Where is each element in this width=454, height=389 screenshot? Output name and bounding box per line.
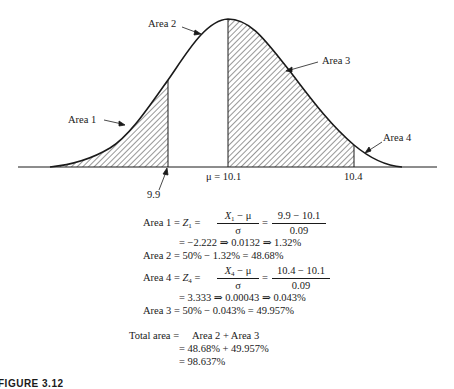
area1-result: = −2.222 ⇒ 0.0132 ⇒ 1.32% [179, 238, 301, 249]
area1-lhs: Area 1 = Z1 = [143, 218, 200, 229]
equals-sign: = [262, 218, 268, 229]
figure-caption: FIGURE 3.12 [0, 378, 64, 389]
equals-sign: = [262, 273, 268, 284]
area4-numeric-fraction: 10.4 − 10.1 0.09 [272, 266, 330, 291]
area1-symbolic-fraction: X1 − μ σ [217, 211, 259, 236]
total-lhs: Total area = [129, 331, 179, 342]
area3-line: Area 3 = 50% − 0.043% = 49.957% [143, 306, 294, 317]
total-line3: = 98.637% [179, 357, 225, 368]
area4-result: = 3.333 ⇒ 0.00043 ⇒ 0.043% [179, 293, 306, 304]
total-line1: Area 2 + Area 3 [192, 331, 259, 342]
total-line2: = 48.68% + 49.957% [179, 344, 269, 355]
area2-line: Area 2 = 50% − 1.32% = 48.68% [143, 251, 284, 262]
area4-lhs: Area 4 = Z4 = [143, 273, 200, 284]
area4-symbolic-fraction: X4 − μ σ [217, 266, 259, 291]
area1-numeric-fraction: 9.9 − 10.1 0.09 [272, 211, 326, 236]
